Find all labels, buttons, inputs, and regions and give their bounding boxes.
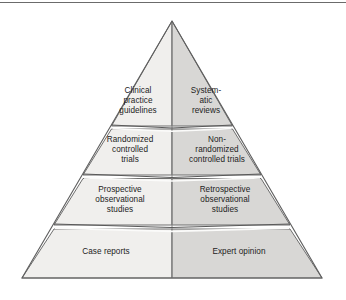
tier-4-left-segment[interactable] — [22, 229, 172, 278]
tier-4-right-segment[interactable] — [172, 229, 322, 278]
tier-3-left-segment[interactable] — [54, 179, 172, 226]
tier-3-right-segment[interactable] — [172, 179, 290, 226]
evidence-pyramid-graphic — [0, 0, 346, 300]
tier-2-right-segment[interactable] — [172, 129, 261, 175]
tier-2-left-segment[interactable] — [83, 129, 172, 175]
figure-canvas: Clinical practice guidelines System- ati… — [0, 0, 346, 300]
